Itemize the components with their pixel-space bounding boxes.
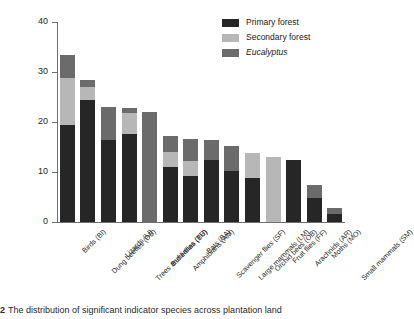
figure-caption-text: The distribution of significant indicato…	[8, 305, 282, 315]
bar-segment-eucalyptus	[101, 107, 116, 140]
bar-segment-primary-forest	[122, 134, 137, 222]
figure-caption: 2The distribution of significant indicat…	[0, 303, 357, 319]
bar-segment-eucalyptus	[122, 108, 137, 113]
bar-group	[163, 22, 178, 222]
x-tick-label: Amphibians (AM)	[191, 228, 236, 273]
bar-segment-eucalyptus	[60, 55, 75, 79]
bar-group	[80, 22, 95, 222]
y-tick-label: 30	[0, 67, 48, 76]
y-tick-label: 40	[0, 17, 48, 26]
bar-segment-primary-forest	[245, 178, 260, 222]
x-tick-label: Large mammals (LM)	[257, 228, 311, 282]
x-tick-label: Arachnids (AR)	[313, 228, 353, 268]
bar-group	[101, 22, 116, 222]
bar-segment-primary-forest	[327, 214, 342, 222]
legend-swatch-icon	[222, 34, 239, 42]
y-tick-label: 10	[0, 167, 48, 176]
bar-segment-eucalyptus	[142, 112, 157, 222]
legend-label: Eucalyptus	[246, 48, 288, 57]
figure-number: 2	[0, 305, 5, 315]
legend-swatch-icon	[222, 49, 239, 57]
legend-swatch-icon	[222, 19, 239, 27]
bar-segment-primary-forest	[101, 140, 116, 222]
x-tick-label: Dung beetles (DB)	[110, 228, 157, 275]
bar-group	[60, 22, 75, 222]
x-tick-label: Bats (BA)	[205, 228, 232, 255]
x-tick-label: Fruit flies (FF)	[291, 228, 328, 265]
y-tick-label: 0	[0, 217, 48, 226]
legend-item: Primary forest	[222, 16, 352, 29]
bar-segment-secondary-forest	[245, 153, 260, 178]
bar-segment-secondary-forest	[122, 113, 137, 134]
bar-segment-primary-forest	[286, 160, 301, 222]
bar-group	[204, 22, 219, 222]
bar-segment-primary-forest	[60, 125, 75, 222]
legend-label: Secondary forest	[246, 33, 310, 42]
bar-group	[183, 22, 198, 222]
bar-segment-secondary-forest	[60, 78, 75, 125]
x-tick-label: Orchid bees (OB)	[274, 228, 319, 273]
x-tick-label: Birds (BI)	[81, 228, 108, 255]
x-tick-label: Scavenger flies (SF)	[235, 228, 287, 280]
bar-segment-primary-forest	[163, 167, 178, 222]
bar-segment-eucalyptus	[163, 136, 178, 152]
bar-segment-primary-forest	[307, 198, 322, 222]
bar-segment-eucalyptus	[307, 185, 322, 198]
x-tick-label: Small mammals (SM)	[360, 228, 414, 282]
bar-segment-eucalyptus	[204, 140, 219, 160]
bar-segment-secondary-forest	[80, 87, 95, 100]
x-tick-label: Lizards (LI)	[124, 228, 155, 259]
bar-group	[142, 22, 157, 222]
bar-segment-primary-forest	[80, 100, 95, 222]
bar-segment-primary-forest	[224, 171, 239, 222]
x-tick-label: Butterflies (BU)	[169, 228, 209, 268]
legend: Primary forestSecondary forestEucalyptus	[222, 16, 352, 61]
x-tick-label: Trees and lianas (TR)	[154, 228, 209, 283]
legend-item: Secondary forest	[222, 31, 352, 44]
legend-label: Primary forest	[246, 18, 299, 27]
bar-segment-secondary-forest	[163, 152, 178, 167]
bar-segment-eucalyptus	[80, 80, 95, 87]
legend-item: Eucalyptus	[222, 46, 352, 59]
bar-group	[122, 22, 137, 222]
bar-segment-eucalyptus	[183, 139, 198, 161]
y-tick-mark	[52, 222, 57, 223]
bar-segment-eucalyptus	[327, 208, 342, 214]
bar-segment-secondary-forest	[266, 157, 281, 222]
x-tick-label: Moths (MO)	[330, 228, 362, 260]
bar-segment-eucalyptus	[224, 146, 239, 171]
y-tick-label: 20	[0, 117, 48, 126]
bar-segment-primary-forest	[183, 176, 198, 222]
bar-segment-secondary-forest	[183, 161, 198, 176]
x-axis-line	[57, 222, 345, 223]
bar-segment-primary-forest	[204, 160, 219, 222]
